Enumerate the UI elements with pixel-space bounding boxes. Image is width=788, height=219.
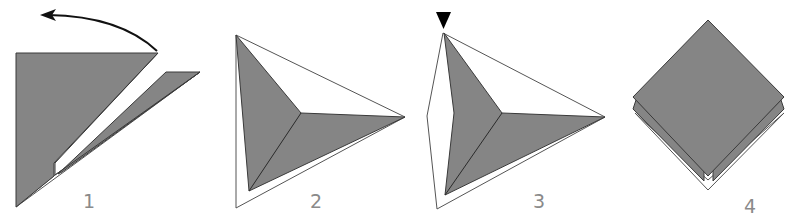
front-diamond (633, 20, 784, 176)
step-2: 2 (236, 35, 405, 212)
step-3: 3 (427, 12, 605, 212)
step-label-2: 2 (310, 190, 322, 212)
step-label-4: 4 (744, 195, 756, 217)
step-4: 4 (633, 20, 784, 217)
push-marker-icon (436, 12, 451, 29)
step-1: 1 (16, 9, 200, 212)
fold-arrow-icon (48, 15, 157, 51)
origami-diagram: 1 2 3 4 (0, 0, 788, 219)
step-label-3: 3 (533, 190, 545, 212)
step-label-1: 1 (83, 190, 95, 212)
